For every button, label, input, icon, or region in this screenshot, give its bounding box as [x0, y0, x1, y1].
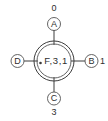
terminal-letter-d: D — [14, 56, 21, 66]
diagram-canvas: F,3,1 A 0 B 1 C 3 D — [0, 0, 108, 121]
port-number-right: 1 — [100, 56, 105, 66]
port-number-top: 0 — [51, 3, 56, 13]
schematic-svg: F,3,1 A 0 B 1 C 3 D — [0, 0, 108, 121]
port-number-bottom: 3 — [51, 107, 56, 117]
terminal-letter-a: A — [51, 19, 57, 29]
center-label: F,3,1 — [44, 55, 68, 66]
terminal-letter-c: C — [51, 93, 58, 103]
center-origin-dot — [39, 62, 42, 65]
terminal-letter-b: B — [88, 56, 94, 66]
